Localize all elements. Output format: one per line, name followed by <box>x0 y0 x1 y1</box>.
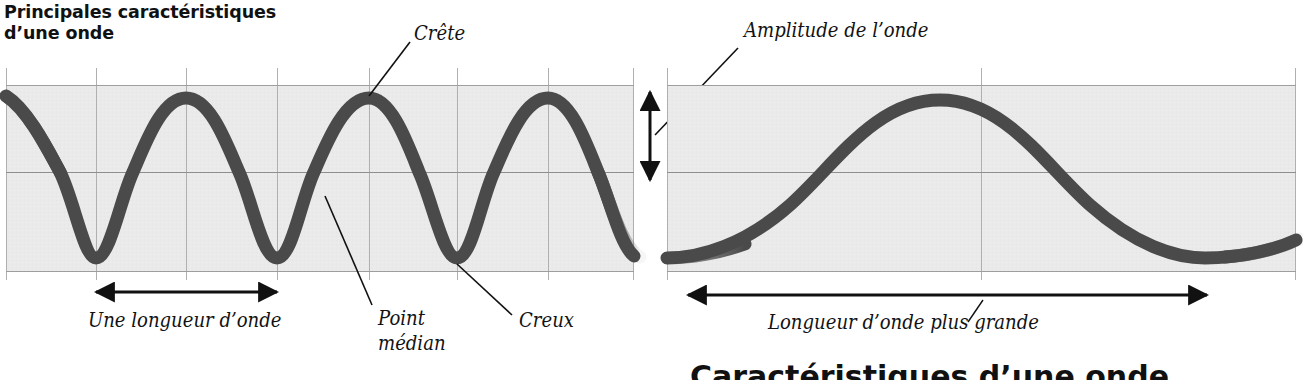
page-title: Principales caractéristiques d’une onde <box>4 2 334 44</box>
right-wave-panel <box>667 68 1300 322</box>
left-wave-panel <box>6 42 640 315</box>
left-panel-band <box>6 85 634 272</box>
wave-characteristics-figure: Principales caractéristiques d’une onde <box>0 0 1303 380</box>
label-amplitude: Amplitude de l’onde <box>744 18 928 43</box>
label-wavelength-right: Longueur d’onde plus grande <box>768 310 1039 335</box>
label-midpoint: Point médian <box>378 306 446 356</box>
label-crest: Crête <box>414 21 465 46</box>
label-wavelength-left: Une longueur d’onde <box>88 308 282 333</box>
label-trough: Creux <box>519 308 574 333</box>
cutoff-headline: Caractéristiques d’une onde <box>690 362 1250 380</box>
